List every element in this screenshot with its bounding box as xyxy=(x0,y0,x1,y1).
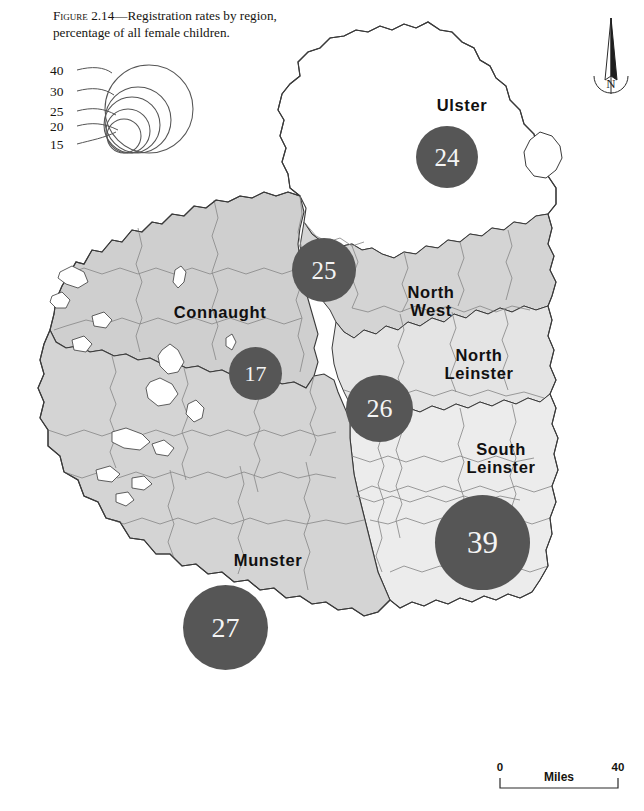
legend: 40 30 25 20 15 xyxy=(48,52,223,157)
legend-leader-40 xyxy=(77,68,112,73)
figure-root: Figure 2.14—Registration rates by region… xyxy=(0,0,644,811)
scale-bar: 0 40 Miles xyxy=(492,760,628,798)
scale-min-label: 0 xyxy=(497,761,503,773)
legend-circle-20 xyxy=(106,109,150,153)
north-arrow-left-half xyxy=(605,18,611,80)
legend-label-30: 30 xyxy=(50,84,64,99)
figure-caption: Figure 2.14—Registration rates by region… xyxy=(53,8,313,42)
region-label-northwest: North West xyxy=(382,283,480,320)
legend-circle-40 xyxy=(105,65,193,153)
legend-leader-25 xyxy=(77,109,116,115)
circle-value-northwest: 25 xyxy=(312,258,337,283)
proportional-circle-northleinster: 26 xyxy=(346,375,413,442)
figure-label: Figure xyxy=(53,8,88,23)
legend-circle-30 xyxy=(105,87,171,153)
region-label-munster: Munster xyxy=(196,551,340,569)
north-arrow: N xyxy=(588,14,634,100)
region-label-ulster: Ulster xyxy=(404,96,520,114)
circle-value-southleinster: 39 xyxy=(467,527,498,558)
legend-circle-25 xyxy=(104,97,160,153)
legend-leader-30 xyxy=(77,89,114,95)
region-label-connaught: Connaught xyxy=(150,303,290,321)
legend-label-15: 15 xyxy=(50,137,64,152)
proportional-circle-munster: 27 xyxy=(183,585,268,670)
north-arrow-label: N xyxy=(606,76,616,91)
scale-max-label: 40 xyxy=(612,761,625,773)
circle-value-northleinster: 26 xyxy=(367,396,393,422)
legend-label-40: 40 xyxy=(50,63,64,78)
region-label-northleinster: North Leinster xyxy=(418,346,540,383)
region-label-southleinster: South Leinster xyxy=(440,440,562,477)
proportional-circle-northwest: 25 xyxy=(292,238,356,302)
legend-circle-15 xyxy=(107,119,141,153)
proportional-circle-connaught: 17 xyxy=(229,347,282,400)
figure-number: 2.14 xyxy=(91,8,114,23)
proportional-circle-southleinster: 39 xyxy=(435,495,530,590)
circle-value-connaught: 17 xyxy=(245,363,267,385)
proportional-circle-ulster: 24 xyxy=(416,126,478,188)
legend-label-25: 25 xyxy=(50,104,64,119)
north-arrow-right-half xyxy=(611,18,617,80)
legend-label-20: 20 xyxy=(50,119,64,134)
circle-value-munster: 27 xyxy=(212,614,240,642)
circle-value-ulster: 24 xyxy=(435,145,460,170)
scale-units-label: Miles xyxy=(544,770,574,784)
